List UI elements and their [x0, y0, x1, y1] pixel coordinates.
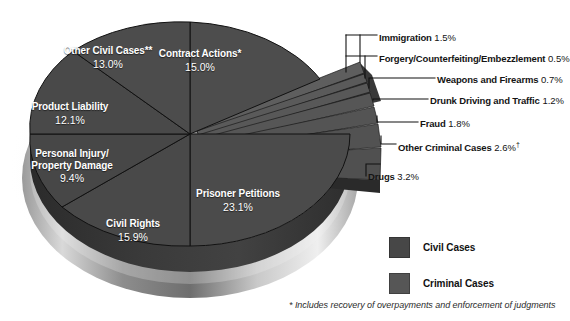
legend-label: Criminal Cases — [423, 278, 494, 289]
callout-drugs: Drugs 3.2% — [368, 172, 419, 182]
legend-swatch-criminal-icon — [389, 273, 410, 294]
callout-drunk-driving: Drunk Driving and Traffic 1.2% — [430, 96, 564, 106]
callout-name: Immigration — [379, 32, 432, 43]
slice-name: Contract Actions* — [159, 48, 241, 60]
legend: Civil Cases Criminal Cases — [389, 234, 494, 306]
slice-name: Civil Rights — [106, 218, 160, 230]
callout-percent: 0.7% — [541, 74, 563, 85]
callout-percent: 1.8% — [448, 118, 470, 129]
callout-name: Fraud — [420, 118, 446, 129]
slice-name: Prisoner Petitions — [196, 188, 280, 200]
dagger-footnote-marker: † — [516, 141, 520, 148]
slice-percent: 15.0% — [159, 61, 241, 73]
callout-percent: 1.2% — [542, 95, 564, 106]
callout-name: Drunk Driving and Traffic — [430, 95, 540, 106]
callout-other-criminal: Other Criminal Cases 2.6%† — [398, 141, 520, 153]
callout-fraud: Fraud 1.8% — [420, 119, 470, 129]
slice-label-other-civil-cases: Other Civil Cases** 13.0% — [64, 45, 153, 70]
slice-label-contract-actions: Contract Actions* 15.0% — [159, 48, 241, 73]
slice-label-product-liability: Product Liability 12.1% — [32, 101, 109, 126]
slice-percent: 23.1% — [196, 201, 280, 213]
slice-percent: 12.1% — [32, 114, 109, 126]
slice-label-prisoner-petitions: Prisoner Petitions 23.1% — [196, 188, 280, 213]
callout-forgery: Forgery/Counterfeiting/Embezzlement 0.5% — [379, 54, 570, 64]
slice-name: Other Civil Cases** — [64, 45, 153, 57]
slice-percent: 15.9% — [106, 231, 160, 243]
legend-item-civil-cases[interactable]: Civil Cases — [389, 234, 494, 260]
callout-percent: 2.6% — [494, 142, 516, 153]
callout-name: Drugs — [368, 171, 395, 182]
callout-name: Weapons and Firearms — [437, 74, 538, 85]
slice-percent: 9.4% — [31, 172, 112, 184]
legend-label: Civil Cases — [423, 242, 475, 253]
slice-name: Product Liability — [32, 101, 109, 113]
slice-label-civil-rights: Civil Rights 15.9% — [106, 218, 160, 243]
callout-immigration: Immigration 1.5% — [379, 33, 456, 43]
footnote: * Includes recovery of overpayments and … — [289, 300, 555, 310]
slice-name-line1: Personal Injury/ — [31, 148, 112, 160]
callout-name: Other Criminal Cases — [398, 142, 492, 153]
slice-percent: 13.0% — [64, 58, 153, 70]
slice-label-personal-injury: Personal Injury/ Property Damage 9.4% — [31, 148, 112, 184]
slice-name-line2: Property Damage — [31, 160, 112, 172]
callout-percent: 0.5% — [548, 53, 570, 64]
legend-item-criminal-cases[interactable]: Criminal Cases — [389, 270, 494, 296]
legend-swatch-civil-icon — [389, 237, 410, 258]
callout-percent: 3.2% — [397, 171, 419, 182]
callout-percent: 1.5% — [434, 32, 456, 43]
callout-weapons: Weapons and Firearms 0.7% — [437, 75, 563, 85]
callout-name: Forgery/Counterfeiting/Embezzlement — [379, 53, 545, 64]
